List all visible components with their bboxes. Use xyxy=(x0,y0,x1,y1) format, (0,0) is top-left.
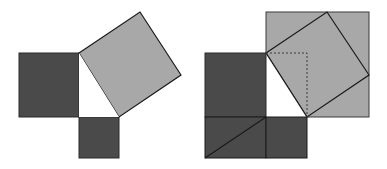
right-figure xyxy=(205,12,369,158)
left-figure xyxy=(19,12,181,158)
left-large-leg-square xyxy=(19,53,79,117)
left-small-leg-square xyxy=(79,117,119,158)
pythagoras-diagram xyxy=(0,0,387,169)
right-lower-right-dark-square xyxy=(266,117,307,158)
right-upper-dark-square xyxy=(205,53,266,117)
